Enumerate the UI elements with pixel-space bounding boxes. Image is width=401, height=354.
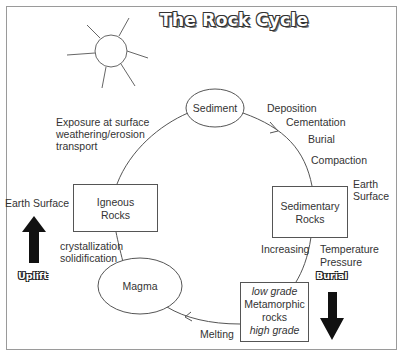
rock-cycle-diagram	[0, 0, 401, 354]
diagram-frame	[7, 7, 397, 350]
uplift-arrow-icon	[22, 216, 46, 263]
crystallization-line1: crystallization	[60, 240, 123, 252]
metamorphic-label: low grade Metamorphic rocks high grade	[240, 285, 309, 337]
metamorphic-low-grade: low grade	[240, 285, 309, 298]
earth-surface-right-line1: Earth	[353, 178, 389, 190]
exposure-label: Exposure at surface weathering/erosion t…	[56, 116, 149, 152]
temperature-line: Temperature	[320, 243, 379, 256]
increasing-label: Increasing	[261, 243, 309, 255]
earth-surface-left-label: Earth Surface	[5, 197, 69, 209]
magma-label: Magma	[110, 280, 170, 292]
burial-process-label: Burial	[308, 133, 335, 145]
crystallization-line2: solidification	[60, 252, 123, 264]
deposition-label: Deposition	[267, 102, 317, 114]
metamorphic-label-line1: Metamorphic	[240, 298, 309, 311]
igneous-label-line2: Rocks	[73, 209, 158, 222]
uplift-label: Uplift	[18, 270, 48, 281]
metamorphic-label-line2: rocks	[240, 311, 309, 324]
diagram-title: The Rock Cycle	[160, 10, 308, 30]
compaction-label: Compaction	[311, 154, 367, 166]
burial-arrow-label: Burial	[316, 270, 348, 281]
igneous-label-line1: Igneous	[73, 196, 158, 209]
exposure-line1: Exposure at surface	[56, 116, 149, 128]
melting-label: Melting	[200, 328, 234, 340]
metamorphic-high-grade: high grade	[240, 324, 309, 337]
crystallization-label: crystallization solidification	[60, 240, 123, 264]
temperature-pressure-label: Temperature Pressure	[320, 243, 379, 269]
sedimentary-label: Sedimentary Rocks	[272, 200, 348, 226]
earth-surface-right-label: Earth Surface	[353, 178, 389, 202]
sediment-label: Sediment	[186, 102, 244, 114]
igneous-label: Igneous Rocks	[73, 196, 158, 222]
burial-arrow-icon	[320, 292, 344, 340]
earth-surface-right-line2: Surface	[353, 190, 389, 202]
pressure-line: Pressure	[320, 256, 379, 269]
exposure-line2: weathering/erosion	[56, 128, 149, 140]
sedimentary-label-line1: Sedimentary	[272, 200, 348, 213]
sun-icon	[67, 18, 148, 88]
sedimentary-label-line2: Rocks	[272, 213, 348, 226]
cementation-label: Cementation	[286, 116, 346, 128]
exposure-line3: transport	[56, 140, 149, 152]
